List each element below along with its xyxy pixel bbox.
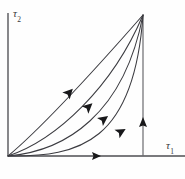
vertical-axis-label-subscript: 2	[17, 15, 21, 24]
trajectory-curve-3	[8, 15, 143, 156]
horizontal-axis-label-subscript: 1	[170, 147, 174, 156]
horizontal-axis-label: τ1	[166, 140, 174, 154]
vertical-axis-label: τ2	[13, 8, 21, 22]
phase-plane-figure: τ2 τ1	[0, 0, 185, 179]
trajectory-arrow-icon-4	[115, 125, 129, 139]
trajectory-curve-4	[8, 15, 143, 156]
trajectory-curve-2	[8, 15, 143, 156]
trajectory-arrow-icon-1	[62, 85, 76, 99]
figure-canvas	[0, 0, 185, 179]
trajectory-curve-1	[8, 15, 143, 156]
trajectory-group	[8, 15, 143, 156]
trajectory-arrow-icon-2	[82, 100, 96, 114]
drop-line-arrow-icon	[139, 117, 147, 127]
